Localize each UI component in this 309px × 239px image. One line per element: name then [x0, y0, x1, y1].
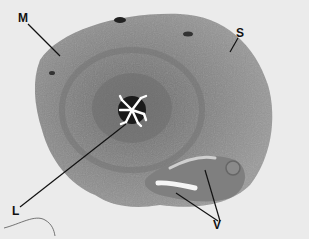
micrograph-figure: M S L V [0, 0, 309, 239]
tissue-section-image [0, 0, 309, 239]
label-l: L [12, 205, 19, 217]
label-s: S [236, 27, 244, 39]
label-v: V [213, 219, 221, 231]
label-m: M [18, 12, 28, 24]
